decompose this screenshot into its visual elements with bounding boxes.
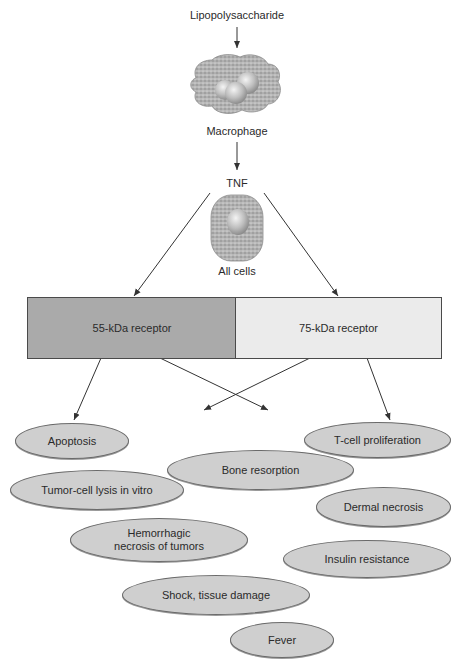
effect-insulin-resistance: Insulin resistance: [283, 540, 451, 578]
receptor-75kda-box: 75-kDa receptor: [235, 297, 442, 359]
generic-cell-icon: [211, 195, 263, 261]
all-cells-label: All cells: [197, 265, 277, 277]
arrow-tnf-to-55kda: [134, 193, 210, 296]
hemorrhagic-line1: Hemorrhagic: [128, 527, 191, 540]
effect-dermal-necrosis: Dermal necrosis: [316, 487, 451, 527]
lipopolysaccharide-label: Lipopolysaccharide: [187, 9, 287, 21]
effect-apoptosis: Apoptosis: [15, 423, 129, 459]
arrow-75kda-to-center: [204, 358, 310, 410]
effect-bone-resorption: Bone resorption: [167, 450, 354, 490]
arrow-55kda-to-apoptosis: [74, 358, 101, 420]
effect-fever: Fever: [230, 622, 334, 658]
effect-shock-tissue-damage: Shock, tissue damage: [122, 575, 310, 615]
arrow-55kda-to-center: [160, 358, 268, 410]
macrophage-label: Macrophage: [187, 125, 287, 137]
effect-tumor-cell-lysis: Tumor-cell lysis in vitro: [10, 470, 184, 510]
tnf-label: TNF: [207, 177, 267, 189]
effect-t-cell-proliferation: T-cell proliferation: [304, 422, 451, 458]
hemorrhagic-line2: necrosis of tumors: [114, 540, 204, 553]
macrophage-cell-icon: [191, 55, 281, 114]
arrow-75kda-to-tcell: [367, 358, 390, 420]
arrow-tnf-to-75kda: [264, 193, 338, 296]
receptor-55kda-box: 55-kDa receptor: [27, 297, 236, 359]
effect-hemorrhagic-necrosis: Hemorrhagic necrosis of tumors: [70, 518, 248, 562]
